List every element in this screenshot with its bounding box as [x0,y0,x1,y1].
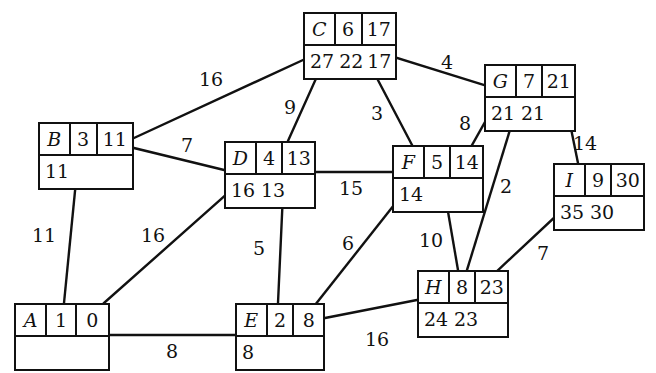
node-h-top-row: H823 [419,272,507,304]
node-i-bottom-cell-1: 30 [585,197,613,227]
node-d-top-cell-0: D [226,143,255,173]
node-c-bottom-row: 272217 [305,46,395,78]
edge-e-h [325,300,417,318]
node-a-top-cell-0: A [16,305,45,335]
edge-weight-b-d: 7 [181,134,193,156]
node-g[interactable]: G7212121 [484,64,576,132]
node-h-bottom-row: 2423 [419,304,507,336]
node-b-bottom-row: 11 [40,156,132,188]
node-i[interactable]: I9303530 [553,163,645,231]
graph-diagram: 169347814151116561027816 A10B31111C61727… [0,0,656,373]
edge-weight-g-h: 2 [500,175,512,197]
edge-weight-d-e: 5 [253,237,265,259]
node-e-bottom-row: 8 [237,337,323,369]
node-i-top-cell-0: I [555,165,584,195]
node-h-top-cell-1: 8 [448,272,475,302]
node-g-top-cell-1: 7 [515,66,542,96]
node-c-bottom-cell-2: 17 [362,46,395,76]
node-c[interactable]: C617272217 [303,12,397,80]
edge-a-d [104,193,228,303]
node-g-top-row: G721 [486,66,574,98]
node-h[interactable]: H8232423 [417,270,509,338]
node-a[interactable]: A10 [14,303,110,371]
node-e-top-row: E28 [237,305,323,337]
edge-weight-f-g: 8 [459,112,471,134]
node-h-top-cell-2: 23 [474,272,507,302]
node-f-top-cell-0: F [394,147,423,177]
node-b-top-cell-1: 3 [69,124,96,154]
edge-weight-d-f: 15 [339,177,363,199]
node-c-bottom-cell-0: 27 [305,46,334,76]
edge-weight-e-h: 16 [365,328,389,350]
node-f-bottom-row: 14 [394,179,482,211]
node-e-top-cell-1: 2 [266,305,293,335]
edge-weight-f-h: 10 [419,229,443,251]
node-f[interactable]: F51414 [392,145,484,213]
node-a-top-cell-1: 1 [45,305,74,335]
node-c-top-cell-1: 6 [334,14,361,44]
node-f-top-cell-1: 5 [423,147,450,177]
edge-d-e [278,193,283,303]
node-h-bottom-cell-1: 23 [449,304,477,334]
edge-weight-b-c: 16 [199,68,223,90]
node-a-top-cell-2: 0 [75,305,108,335]
node-e-bottom-cell-0: 8 [237,337,267,367]
node-d[interactable]: D4131613 [224,141,316,209]
node-h-top-cell-0: H [419,272,448,302]
node-f-bottom-cell-0: 14 [394,179,424,209]
node-i-top-cell-2: 30 [610,165,643,195]
node-e[interactable]: E288 [235,303,325,371]
node-b-top-row: B311 [40,124,132,156]
node-g-bottom-cell-0: 21 [486,98,516,128]
edge-weight-i-h: 7 [537,242,549,264]
node-c-top-row: C617 [305,14,395,46]
node-f-top-row: F514 [394,147,482,179]
node-g-top-cell-2: 21 [541,66,574,96]
edge-b-d [134,148,224,170]
edge-weight-a-d: 16 [141,224,165,246]
node-d-top-cell-2: 13 [281,143,314,173]
edge-weight-a-b: 11 [32,224,56,246]
node-i-top-cell-1: 9 [584,165,611,195]
node-h-bottom-cell-0: 24 [419,304,449,334]
node-i-top-row: I930 [555,165,643,197]
node-b-bottom-cell-0: 11 [40,156,70,186]
node-d-top-row: D413 [226,143,314,175]
node-e-top-cell-0: E [237,305,266,335]
node-d-bottom-cell-1: 13 [256,175,284,205]
node-d-bottom-cell-0: 16 [226,175,256,205]
node-e-top-cell-2: 8 [292,305,323,335]
node-g-bottom-row: 2121 [486,98,574,130]
node-b-top-cell-2: 11 [96,124,132,154]
edge-weight-g-i: 14 [573,132,597,154]
edge-weight-e-f: 6 [342,232,354,254]
node-c-bottom-cell-1: 22 [334,46,362,76]
edge-a-b [64,181,76,303]
edge-weight-a-e: 8 [166,340,178,362]
node-a-bottom-cell-0 [16,337,46,367]
node-d-top-cell-1: 4 [255,143,282,173]
edge-weight-c-d: 9 [284,96,296,118]
node-b-top-cell-0: B [40,124,69,154]
node-i-bottom-row: 3530 [555,197,643,229]
node-i-bottom-cell-0: 35 [555,197,585,227]
node-b[interactable]: B31111 [38,122,134,190]
node-c-top-cell-0: C [305,14,334,44]
node-c-top-cell-2: 17 [361,14,395,44]
node-a-top-row: A10 [16,305,108,337]
node-d-bottom-row: 1613 [226,175,314,207]
node-f-top-cell-2: 14 [449,147,482,177]
edge-weight-c-g: 4 [441,51,453,73]
node-g-bottom-cell-1: 21 [516,98,544,128]
edge-e-f [315,200,398,305]
node-g-top-cell-0: G [486,66,515,96]
node-a-bottom-row [16,337,108,369]
edge-weight-c-f: 3 [371,102,383,124]
